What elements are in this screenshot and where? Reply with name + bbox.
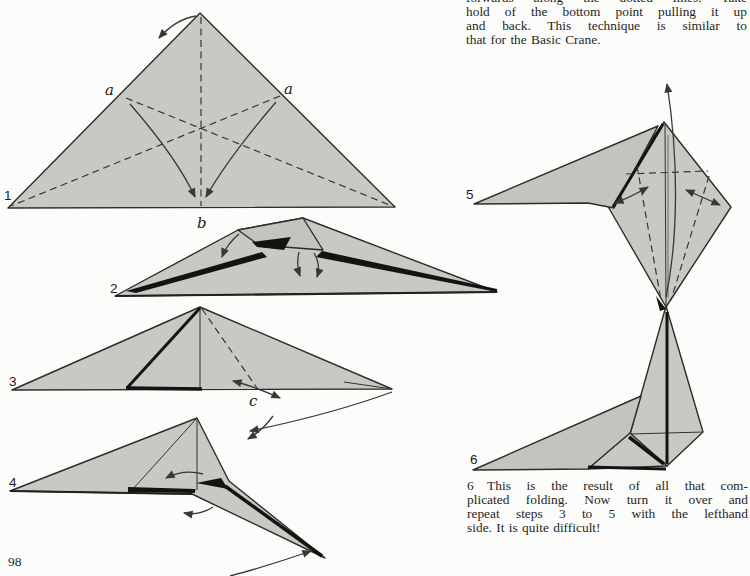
vertex-label-c: c <box>249 392 258 410</box>
step4-sweep-arrow <box>230 551 311 576</box>
instruction-line: 6 This is the result of all that com- <box>467 479 748 493</box>
step3-sweep-arrow <box>250 392 392 431</box>
step-5-label: 5 <box>466 187 474 202</box>
book-page: 1 a a b 2 3 c <box>0 0 750 576</box>
step6-bold-base <box>588 467 666 469</box>
instruction-line: plicated folding. Now turn it over and <box>467 493 748 507</box>
step-3-label: 3 <box>9 374 17 389</box>
step-3-diagram: 3 c <box>9 307 392 431</box>
step3-bold-base <box>126 388 202 389</box>
step3-body <box>12 307 392 390</box>
step-5-diagram: 5 <box>466 84 731 307</box>
step-4-label: 4 <box>9 475 17 490</box>
step-6-diagram: 6 <box>470 296 703 470</box>
vertex-label-a-left: a <box>105 81 114 99</box>
instruction-line: and back. This technique is similar to <box>466 19 747 33</box>
vertex-label-b: b <box>197 214 207 232</box>
step-2-diagram: 2 <box>110 218 497 296</box>
step-1-diagram: 1 a a b <box>4 13 395 232</box>
step-1-label: 1 <box>4 188 12 203</box>
instruction-paragraph-step6: 6 This is the result of all that com- pl… <box>467 479 748 535</box>
step-4-diagram: 4 <box>9 416 325 576</box>
vertex-label-a-right: a <box>284 80 293 98</box>
step4-spike-bold-edge <box>225 486 322 556</box>
step4-body <box>10 418 325 558</box>
step-2-label: 2 <box>110 281 118 296</box>
step-6-label: 6 <box>470 452 478 467</box>
step4-arrow-low <box>184 507 213 514</box>
instruction-line: side. It is quite difficult! <box>467 521 748 535</box>
instruction-line: hold of the bottom point pulling it up <box>466 5 747 19</box>
instruction-line: repeat steps 3 to 5 with the lefthand <box>467 507 748 521</box>
instruction-line: that for the Basic Crane. <box>466 33 747 47</box>
page-number: 98 <box>8 554 22 570</box>
instruction-paragraph-top: forwards along the dotted lines. Take ho… <box>466 0 747 47</box>
